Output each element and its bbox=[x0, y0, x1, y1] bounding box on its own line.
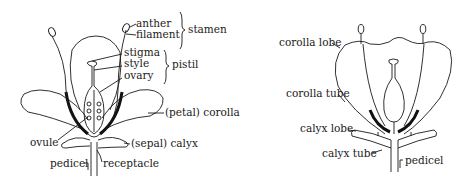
label-receptacle: receptacle bbox=[103, 157, 159, 169]
label-corolla-lobe: corolla lobe bbox=[279, 36, 341, 48]
pistil-brace bbox=[164, 50, 169, 84]
label-ovule: ovule bbox=[30, 136, 59, 148]
leader-pedicel-right bbox=[400, 160, 403, 168]
leader-filament bbox=[126, 34, 136, 35]
petal-back bbox=[70, 36, 121, 110]
label-calyx-lobe: calyx lobe bbox=[300, 122, 353, 134]
calyx-lobe-right bbox=[398, 130, 437, 148]
anther-right-fig-right bbox=[420, 25, 426, 34]
label-pistil: pistil bbox=[172, 58, 199, 70]
label-pedicel: pedicel bbox=[50, 157, 89, 169]
label-ovary: ovary bbox=[124, 69, 154, 81]
petal-base-left bbox=[66, 92, 88, 134]
corolla-tube-inner-right bbox=[404, 44, 424, 126]
label-calyx-tube: calyx tube bbox=[322, 147, 377, 159]
label-style: style bbox=[124, 57, 149, 69]
sepal-left bbox=[62, 138, 91, 148]
complete-flower-figure: anther filament stamen stigma style pist… bbox=[21, 12, 240, 176]
label-pedicel-right: pedicel bbox=[405, 154, 444, 166]
stamen-brace bbox=[180, 12, 185, 49]
sepal-right bbox=[98, 137, 128, 148]
leader-calyx bbox=[124, 143, 130, 144]
leader-style bbox=[94, 66, 122, 70]
calyx-lobe-left bbox=[351, 130, 391, 148]
label-stamen: stamen bbox=[188, 23, 227, 35]
corolla-outline bbox=[335, 37, 451, 134]
label-filament: filament bbox=[136, 28, 181, 40]
tubular-flower-figure: corolla lobe corolla tube calyx lobe cal… bbox=[279, 25, 452, 173]
corolla-base-left bbox=[370, 110, 390, 132]
pedicel-stem bbox=[91, 142, 97, 176]
label-corolla-tube: corolla tube bbox=[286, 87, 350, 99]
corolla-tube-inner-left bbox=[363, 44, 385, 126]
petal-base-right bbox=[100, 92, 122, 134]
label-corolla: (petal) corolla bbox=[165, 106, 240, 118]
label-calyx: (sepal) calyx bbox=[131, 137, 198, 149]
flower-diagram: anther filament stamen stigma style pist… bbox=[0, 0, 467, 184]
leader-receptacle bbox=[97, 150, 102, 162]
corolla-base-right bbox=[398, 110, 418, 132]
pedicel-stem-right bbox=[391, 140, 398, 172]
anther-left bbox=[47, 27, 56, 38]
anther-right-fig-left bbox=[358, 25, 364, 34]
leader-stigma bbox=[92, 54, 122, 61]
pistil-right bbox=[384, 59, 405, 122]
